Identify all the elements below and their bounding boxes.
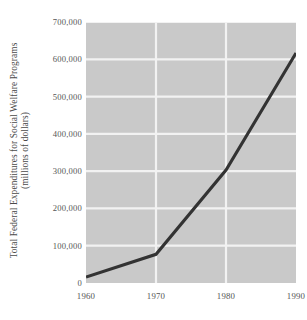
- x-tick-label-1970: 1970: [147, 291, 165, 301]
- x-tick-label-1960: 1960: [77, 291, 95, 301]
- plot-svg: [86, 22, 296, 283]
- y-tick-label-300000: 300,000: [53, 166, 82, 176]
- y-axis-title: Total Federal Expenditures for Social We…: [0, 0, 42, 300]
- y-tick-label-400000: 400,000: [53, 129, 82, 139]
- y-tick-label-600000: 600,000: [53, 54, 82, 64]
- y-axis-title-line2: (millions of dollars): [21, 42, 32, 258]
- y-tick-label-200000: 200,000: [53, 203, 82, 213]
- y-tick-label-500000: 500,000: [53, 92, 82, 102]
- y-tick-label-100000: 100,000: [53, 241, 82, 251]
- x-tick-label-1980: 1980: [217, 291, 235, 301]
- y-tick-label-0: 0: [78, 278, 83, 288]
- chart-figure: Total Federal Expenditures for Social We…: [0, 0, 307, 320]
- x-tick-label-1990: 1990: [287, 291, 305, 301]
- y-tick-label-700000: 700,000: [53, 17, 82, 27]
- data-series-line: [86, 53, 296, 277]
- plot-area: [86, 22, 296, 283]
- y-axis-title-line1: Total Federal Expenditures for Social We…: [10, 42, 20, 258]
